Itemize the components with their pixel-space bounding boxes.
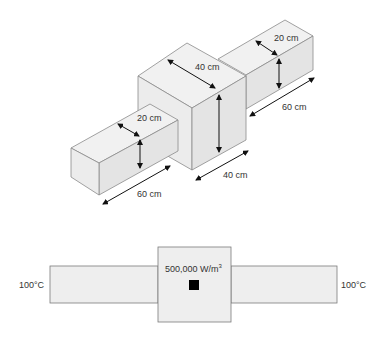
left-bar-width-label: 20 cm	[137, 113, 162, 123]
cube-depth-label: 40 cm	[223, 170, 248, 180]
left-bar-length-label: 60 cm	[137, 189, 162, 199]
left-bar-section	[50, 266, 158, 303]
isometric-view: 20 cm 60 cm 40 cm 40 cm 20 cm 60 cm	[71, 20, 314, 204]
right-bar-length-label: 60 cm	[282, 102, 307, 112]
heat-generation-label: 500,000 W/m3	[165, 263, 223, 274]
left-bar-3d	[71, 104, 178, 195]
cube-width-label: 40 cm	[195, 62, 220, 72]
cross-section-view: 500,000 W/m3 100°C 100°C	[19, 247, 367, 322]
heat-source-icon	[189, 280, 199, 290]
right-temperature-label: 100°C	[341, 280, 367, 290]
right-bar-width-label: 20 cm	[274, 33, 299, 43]
left-temperature-label: 100°C	[19, 280, 45, 290]
right-bar-section	[231, 266, 337, 303]
heat-conduction-diagram: 20 cm 60 cm 40 cm 40 cm 20 cm 60 cm 500,…	[0, 0, 385, 346]
